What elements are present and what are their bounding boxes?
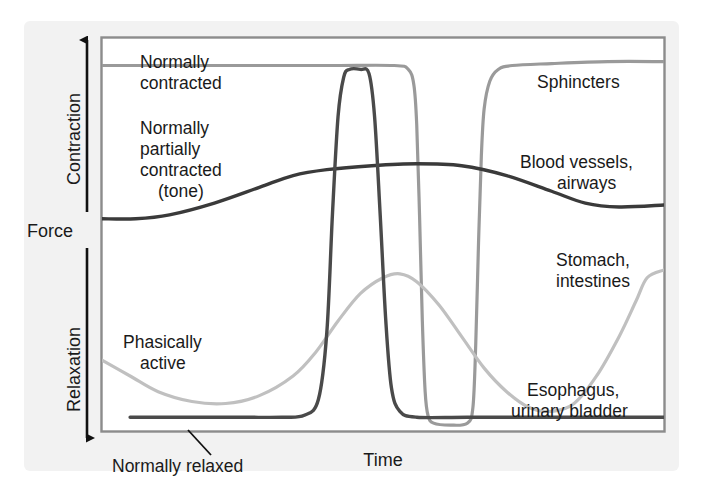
- y-axis-title-force: Force: [27, 221, 73, 241]
- y-axis-label-contraction: Contraction: [64, 93, 84, 185]
- series-label-esophagus-bladder: Esophagus, urinary bladder: [511, 380, 628, 421]
- series-label-blood-vessels-line1: Blood vessels,: [520, 152, 633, 172]
- annotation-tone-line3: contracted: [140, 160, 222, 180]
- annotation-phasically-active-line1: Phasically: [123, 332, 202, 352]
- x-axis-title-time: Time: [363, 450, 402, 470]
- series-label-stomach-line2: intestines: [556, 271, 630, 291]
- annotation-normally-relaxed: Normally relaxed: [112, 456, 243, 476]
- y-axis-label-relaxation: Relaxation: [64, 327, 84, 412]
- annotation-tone-line4: (tone): [158, 181, 204, 201]
- series-label-blood-vessels-line2: airways: [557, 173, 617, 193]
- annotation-phasically-active-line2: active: [140, 353, 186, 373]
- series-label-esophagus-line2: urinary bladder: [511, 401, 628, 421]
- figure-container: Contraction Relaxation Force Time Normal…: [0, 0, 702, 489]
- annotation-normally-contracted-line1: Normally: [140, 52, 209, 72]
- annotation-tone-line2: partially: [140, 139, 201, 159]
- series-label-esophagus-line1: Esophagus,: [527, 380, 619, 400]
- annotation-normally-contracted-line2: contracted: [140, 73, 222, 93]
- normally-relaxed-leader-line: [188, 430, 211, 455]
- plot-frame: [102, 38, 665, 432]
- annotation-tone-line1: Normally: [140, 118, 209, 138]
- series-label-stomach-intestines: Stomach, intestines: [556, 250, 630, 291]
- series-label-stomach-line1: Stomach,: [556, 250, 630, 270]
- chart-svg: Contraction Relaxation Force Time Normal…: [0, 0, 702, 489]
- y-axis-group: Contraction Relaxation Force: [27, 40, 87, 438]
- series-label-sphincters: Sphincters: [537, 72, 620, 92]
